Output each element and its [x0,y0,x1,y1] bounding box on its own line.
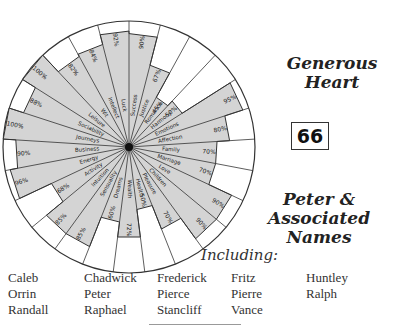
subtitle-line-2: Associated Names [236,209,402,247]
title-line-1: Generous [262,54,402,73]
divider [149,324,241,325]
radar-wheel-chart: Success90%Justice67%Romance45%Harmony50%… [0,18,258,276]
percent-label: 72% [126,223,133,237]
chart-title: Generous Heart [262,54,402,92]
number-badge: 66 [291,122,329,150]
name-item: Stancliff [157,302,202,318]
name-item: Huntley [306,270,348,286]
names-list: CalebChadwickFrederickFritzHuntleyOrrinP… [0,270,402,326]
name-item: Pierce [157,286,189,302]
including-label: Including: [201,246,278,264]
name-item: Raphael [84,302,127,318]
name-item: Caleb [8,270,38,286]
name-item: Fritz [231,270,256,286]
subtitle: Peter & Associated Names [236,190,402,247]
title-line-2: Heart [262,73,402,92]
category-label: Wealth [126,179,132,199]
name-item: Orrin [8,286,36,302]
name-item: Pierre [231,286,262,302]
center-hub [125,143,133,151]
name-item: Peter [84,286,111,302]
name-item: Frederick [157,270,207,286]
name-item: Randall [8,302,48,318]
percent-label: 70% [202,147,216,155]
percent-label: 90% [17,149,31,157]
name-item: Vance [231,302,263,318]
subtitle-line-1: Peter & [236,190,402,209]
name-item: Chadwick [84,270,137,286]
name-item: Ralph [306,286,337,302]
